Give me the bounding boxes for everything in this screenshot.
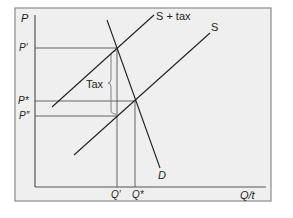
tax-incidence-diagram xyxy=(0,0,293,218)
y-axis-label: P xyxy=(21,13,28,24)
q-prime-label: Q′ xyxy=(111,190,121,200)
p-star-label: P* xyxy=(18,96,29,106)
x-axis-label: Q/t xyxy=(240,190,255,201)
p-prime-label: P′ xyxy=(19,43,28,53)
demand-label: D xyxy=(158,170,166,181)
diagram-panel xyxy=(15,8,271,201)
tax-label: Tax xyxy=(86,79,103,90)
p-double-prime-label: P″ xyxy=(19,111,29,121)
q-star-label: Q* xyxy=(132,190,144,200)
supply-plus-tax-label: S + tax xyxy=(156,11,191,22)
supply-label: S xyxy=(211,22,218,33)
